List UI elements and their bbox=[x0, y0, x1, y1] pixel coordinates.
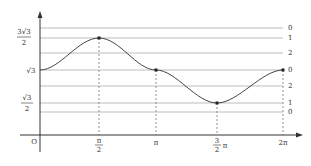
function-graph: 3√3 2 √3 √3 2 O π 2 π 3 2 π 2π 0 1 2 0 2… bbox=[0, 0, 311, 166]
right-label-7: 0 bbox=[288, 108, 292, 116]
label-pi-half-den: 2 bbox=[97, 146, 101, 154]
reference-lines bbox=[40, 28, 283, 112]
right-label-1: 0 bbox=[288, 24, 292, 32]
label-3sqrt3: 3√3 bbox=[17, 28, 30, 36]
x-axis-labels: π 2 π 3 2 π 2π bbox=[95, 137, 288, 154]
label-three-half-pi: π bbox=[223, 142, 228, 150]
point-pi bbox=[155, 69, 158, 72]
right-labels: 0 1 2 0 2 1 0 bbox=[288, 24, 292, 116]
y-axis-labels: 3√3 2 √3 √3 2 O bbox=[17, 28, 37, 146]
point-max bbox=[98, 37, 101, 40]
y-axis-arrow-icon bbox=[38, 11, 43, 18]
label-two-pi: 2π bbox=[278, 139, 287, 147]
right-label-4: 0 bbox=[288, 66, 292, 74]
label-three-half-den: 2 bbox=[215, 146, 219, 154]
right-label-3: 2 bbox=[288, 49, 292, 57]
label-3sqrt3-den: 2 bbox=[22, 39, 26, 47]
axes bbox=[20, 16, 298, 152]
label-pi-half-num: π bbox=[97, 137, 102, 145]
right-label-5: 2 bbox=[288, 82, 292, 90]
label-three-half-num: 3 bbox=[215, 137, 219, 145]
point-two-pi bbox=[282, 69, 285, 72]
x-axis-arrow-icon bbox=[296, 133, 303, 138]
label-sqrt3-half: √3 bbox=[23, 94, 32, 102]
point-min bbox=[216, 102, 219, 105]
label-sqrt3: √3 bbox=[27, 67, 36, 75]
origin-label: O bbox=[31, 138, 37, 146]
right-label-6: 1 bbox=[288, 99, 292, 107]
label-sqrt3-half-den: 2 bbox=[25, 105, 29, 113]
right-label-2: 1 bbox=[288, 34, 292, 42]
label-pi: π bbox=[154, 139, 159, 147]
